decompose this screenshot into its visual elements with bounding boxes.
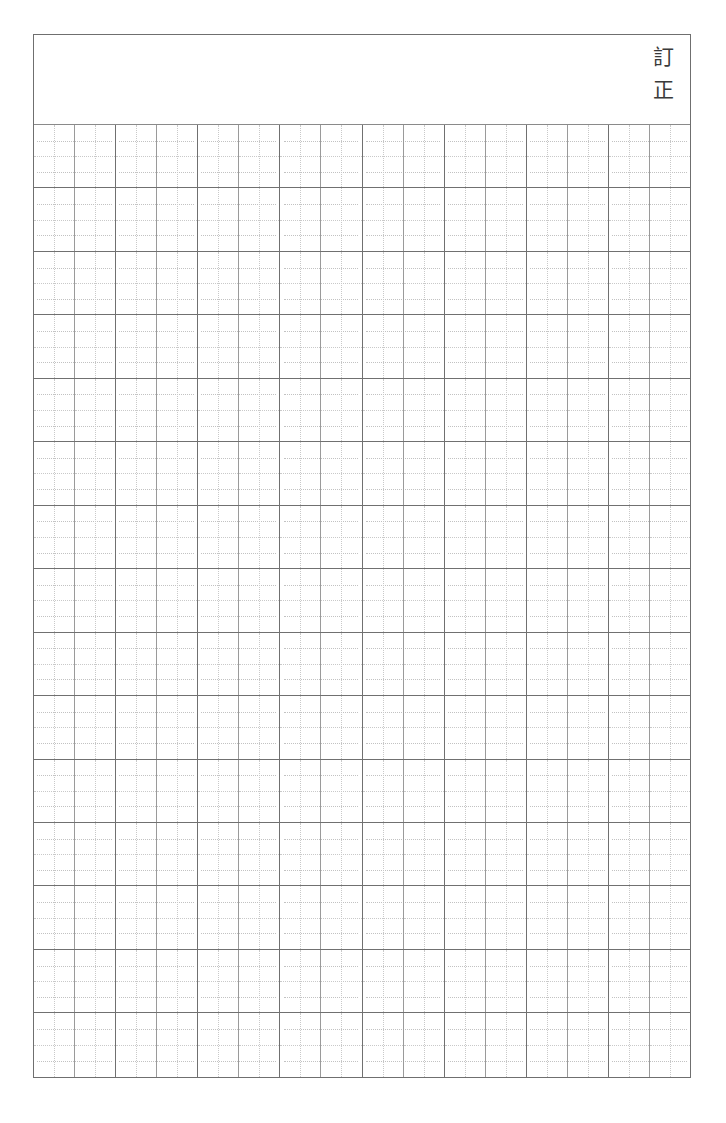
writing-cell[interactable] [568, 696, 608, 758]
writing-cell[interactable] [34, 569, 75, 631]
writing-cell[interactable] [568, 633, 608, 695]
writing-cell[interactable] [34, 1013, 75, 1076]
writing-cell[interactable] [157, 1013, 197, 1076]
writing-cell[interactable] [34, 315, 75, 377]
writing-cell[interactable] [527, 823, 568, 885]
writing-cell[interactable] [321, 125, 361, 187]
writing-cell[interactable] [363, 125, 404, 187]
writing-cell[interactable] [198, 315, 239, 377]
writing-cell[interactable] [445, 506, 486, 568]
writing-cell[interactable] [445, 442, 486, 504]
writing-cell[interactable] [239, 1013, 279, 1076]
writing-cell[interactable] [568, 760, 608, 822]
writing-cell[interactable] [363, 188, 404, 250]
writing-cell[interactable] [198, 823, 239, 885]
writing-cell[interactable] [321, 506, 361, 568]
writing-cell[interactable] [486, 125, 526, 187]
writing-cell[interactable] [650, 696, 690, 758]
writing-cell[interactable] [198, 1013, 239, 1076]
writing-cell[interactable] [239, 188, 279, 250]
writing-cell[interactable] [157, 442, 197, 504]
writing-cell[interactable] [404, 950, 444, 1012]
writing-cell[interactable] [486, 886, 526, 948]
writing-cell[interactable] [609, 379, 650, 441]
writing-cell[interactable] [609, 252, 650, 314]
writing-cell[interactable] [198, 125, 239, 187]
writing-cell[interactable] [404, 506, 444, 568]
writing-cell[interactable] [280, 823, 321, 885]
writing-cell[interactable] [198, 506, 239, 568]
writing-cell[interactable] [363, 633, 404, 695]
writing-cell[interactable] [321, 252, 361, 314]
writing-cell[interactable] [445, 315, 486, 377]
writing-cell[interactable] [239, 823, 279, 885]
writing-cell[interactable] [75, 950, 115, 1012]
writing-cell[interactable] [75, 442, 115, 504]
writing-cell[interactable] [75, 886, 115, 948]
writing-cell[interactable] [568, 125, 608, 187]
writing-cell[interactable] [116, 823, 157, 885]
writing-cell[interactable] [157, 633, 197, 695]
writing-cell[interactable] [116, 379, 157, 441]
writing-cell[interactable] [527, 1013, 568, 1076]
writing-cell[interactable] [568, 950, 608, 1012]
writing-cell[interactable] [486, 252, 526, 314]
writing-cell[interactable] [34, 760, 75, 822]
writing-cell[interactable] [486, 569, 526, 631]
writing-cell[interactable] [280, 125, 321, 187]
writing-cell[interactable] [527, 633, 568, 695]
writing-cell[interactable] [404, 315, 444, 377]
writing-cell[interactable] [568, 506, 608, 568]
writing-cell[interactable] [116, 188, 157, 250]
writing-cell[interactable] [363, 760, 404, 822]
writing-cell[interactable] [486, 823, 526, 885]
writing-cell[interactable] [75, 188, 115, 250]
writing-cell[interactable] [650, 886, 690, 948]
writing-cell[interactable] [568, 1013, 608, 1076]
writing-cell[interactable] [445, 1013, 486, 1076]
writing-cell[interactable] [609, 1013, 650, 1076]
writing-cell[interactable] [527, 379, 568, 441]
writing-cell[interactable] [404, 760, 444, 822]
writing-cell[interactable] [34, 442, 75, 504]
writing-cell[interactable] [568, 569, 608, 631]
writing-cell[interactable] [321, 760, 361, 822]
writing-cell[interactable] [116, 950, 157, 1012]
writing-cell[interactable] [321, 442, 361, 504]
writing-cell[interactable] [568, 188, 608, 250]
writing-cell[interactable] [34, 506, 75, 568]
writing-cell[interactable] [198, 633, 239, 695]
writing-cell[interactable] [280, 633, 321, 695]
writing-cell[interactable] [198, 188, 239, 250]
writing-cell[interactable] [34, 379, 75, 441]
writing-cell[interactable] [445, 823, 486, 885]
writing-cell[interactable] [609, 125, 650, 187]
writing-cell[interactable] [609, 188, 650, 250]
writing-cell[interactable] [363, 886, 404, 948]
writing-cell[interactable] [609, 569, 650, 631]
writing-cell[interactable] [568, 252, 608, 314]
writing-cell[interactable] [321, 950, 361, 1012]
writing-cell[interactable] [157, 696, 197, 758]
writing-cell[interactable] [116, 315, 157, 377]
writing-cell[interactable] [75, 633, 115, 695]
writing-cell[interactable] [650, 950, 690, 1012]
writing-cell[interactable] [34, 696, 75, 758]
writing-cell[interactable] [486, 760, 526, 822]
writing-cell[interactable] [650, 252, 690, 314]
writing-cell[interactable] [75, 506, 115, 568]
writing-cell[interactable] [527, 886, 568, 948]
writing-cell[interactable] [280, 696, 321, 758]
writing-cell[interactable] [116, 633, 157, 695]
writing-cell[interactable] [116, 696, 157, 758]
writing-cell[interactable] [486, 442, 526, 504]
writing-cell[interactable] [486, 950, 526, 1012]
writing-cell[interactable] [34, 823, 75, 885]
writing-cell[interactable] [609, 506, 650, 568]
writing-cell[interactable] [363, 950, 404, 1012]
writing-cell[interactable] [280, 252, 321, 314]
writing-cell[interactable] [157, 315, 197, 377]
writing-cell[interactable] [404, 569, 444, 631]
writing-cell[interactable] [116, 125, 157, 187]
writing-cell[interactable] [445, 886, 486, 948]
